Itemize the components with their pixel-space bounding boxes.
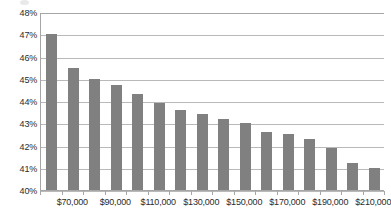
y-axis: 40%41%42%43%44%45%46%47%48% xyxy=(0,0,40,200)
x-tick xyxy=(83,191,84,195)
x-tick xyxy=(341,191,342,195)
x-tick-label: $90,000 xyxy=(100,197,131,207)
x-tick xyxy=(191,191,192,195)
bar xyxy=(154,103,165,190)
x-tick xyxy=(62,191,63,195)
bar xyxy=(197,114,208,190)
bar xyxy=(261,132,272,190)
x-tick xyxy=(234,191,235,195)
y-tick-label: 48% xyxy=(20,8,37,18)
bar xyxy=(304,139,315,190)
x-tick-label: $170,000 xyxy=(269,197,305,207)
x-axis: $70,000$90,000$110,000$130,000$150,000$1… xyxy=(40,197,384,217)
x-tick xyxy=(277,191,278,195)
bar xyxy=(369,168,380,190)
x-tick xyxy=(255,191,256,195)
y-tick-label: 46% xyxy=(20,53,37,63)
x-tick-label: $190,000 xyxy=(312,197,348,207)
bar xyxy=(283,134,294,190)
bar xyxy=(218,119,229,190)
y-tick-label: 45% xyxy=(20,75,37,85)
y-tick-label: 42% xyxy=(20,142,37,152)
bar xyxy=(68,68,79,190)
x-tick xyxy=(126,191,127,195)
bar xyxy=(175,110,186,190)
y-tick-label: 41% xyxy=(20,164,37,174)
y-tick-label: 47% xyxy=(20,30,37,40)
bar xyxy=(326,148,337,190)
bar xyxy=(89,79,100,190)
x-tick xyxy=(363,191,364,195)
x-tick-label: $150,000 xyxy=(226,197,262,207)
x-tick xyxy=(212,191,213,195)
x-axis-ticks xyxy=(40,191,384,195)
x-tick xyxy=(169,191,170,195)
x-tick xyxy=(105,191,106,195)
bar xyxy=(111,85,122,190)
plot-area xyxy=(40,13,384,191)
bar xyxy=(347,163,358,190)
x-tick-label: $70,000 xyxy=(57,197,88,207)
x-tick-label: $210,000 xyxy=(355,197,391,207)
y-tick-label: 44% xyxy=(20,97,37,107)
bar xyxy=(46,34,57,190)
x-tick xyxy=(148,191,149,195)
y-tick-label: 43% xyxy=(20,119,37,129)
y-tick-label: 40% xyxy=(20,186,37,196)
x-tick-label: $110,000 xyxy=(141,197,176,207)
x-tick xyxy=(298,191,299,195)
x-tick xyxy=(384,191,385,195)
x-tick xyxy=(320,191,321,195)
bars-series xyxy=(41,13,384,190)
x-tick xyxy=(40,191,41,195)
bar xyxy=(132,94,143,190)
bar xyxy=(240,123,251,190)
x-tick-label: $130,000 xyxy=(183,197,219,207)
